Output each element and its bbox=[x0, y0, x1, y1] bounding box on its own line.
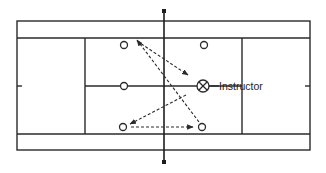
instructor-label: Instructor bbox=[219, 80, 263, 92]
player-marker bbox=[120, 124, 127, 131]
player-marker bbox=[121, 42, 128, 49]
path-arrow-to-front-corner bbox=[137, 40, 199, 122]
instructor-marker-icon bbox=[197, 80, 209, 92]
player-marker bbox=[201, 42, 208, 49]
tennis-court-diagram: Instructor bbox=[0, 0, 326, 173]
net-post-top bbox=[162, 9, 166, 13]
player-marker bbox=[121, 83, 128, 90]
path-arrow-to-instructor bbox=[137, 41, 188, 75]
net-post-bottom bbox=[162, 160, 166, 164]
path-arrow-to-back-left bbox=[130, 95, 186, 124]
player-marker bbox=[199, 124, 206, 131]
